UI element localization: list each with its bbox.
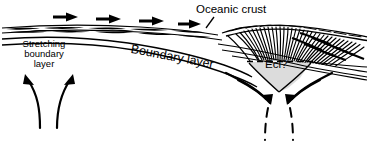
thrust-strokes xyxy=(292,33,364,60)
plate-motion-arrow-2 xyxy=(96,15,121,24)
diagram-canvas xyxy=(0,0,369,144)
label-eclogite: Ecl? xyxy=(265,58,287,70)
geology-cross-section-diagram: Oceanic crust Stretching boundary layer … xyxy=(0,0,369,144)
upwelling-arrowheads xyxy=(23,74,75,85)
label-oceanic-crust: Oceanic crust xyxy=(196,3,266,15)
label-stretching-line-3: layer xyxy=(12,59,76,69)
upwelling-flow-arrows xyxy=(28,80,70,128)
plate-motion-arrow-4 xyxy=(178,20,201,29)
crust-internal-lenses xyxy=(6,27,211,37)
plate-motion-arrow-3 xyxy=(139,17,164,26)
label-stretching-boundary-layer: Stretching boundary layer xyxy=(12,39,76,69)
oceanic-crust-leader-line xyxy=(206,17,214,28)
dashed-continuation-lines xyxy=(265,108,293,140)
plate-motion-arrow-1 xyxy=(53,13,78,22)
